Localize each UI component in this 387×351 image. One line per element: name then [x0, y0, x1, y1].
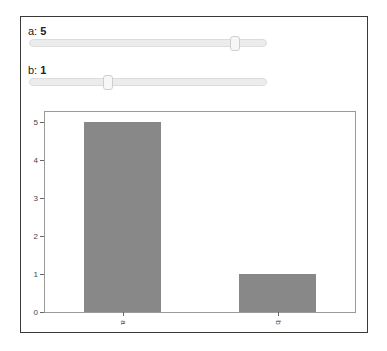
- y-tick: [40, 122, 44, 123]
- slider-b-handle[interactable]: [103, 75, 113, 90]
- bar-chart-plot-area: 012345ab: [44, 111, 356, 313]
- y-tick-label: 0: [34, 308, 38, 317]
- slider-b-value: 1: [40, 64, 46, 76]
- x-tick: [278, 312, 279, 316]
- y-tick: [40, 274, 44, 275]
- slider-b-label: b: 1: [28, 64, 46, 76]
- y-tick: [40, 160, 44, 161]
- y-tick-label: 3: [34, 193, 38, 202]
- slider-a[interactable]: [29, 39, 267, 47]
- y-tick-label: 2: [34, 231, 38, 240]
- slider-b[interactable]: [29, 78, 267, 86]
- widget-panel: a: 5 b: 1 012345ab: [20, 16, 368, 333]
- y-tick: [40, 236, 44, 237]
- y-tick-label: 5: [34, 117, 38, 126]
- x-tick: [123, 312, 124, 316]
- bar-b: [239, 274, 317, 312]
- y-tick-label: 4: [34, 155, 38, 164]
- x-tick-label: b: [273, 320, 282, 324]
- y-tick: [40, 312, 44, 313]
- slider-b-name: b:: [28, 64, 40, 76]
- y-tick-label: 1: [34, 269, 38, 278]
- x-tick-label: a: [118, 320, 127, 324]
- bar-a: [84, 122, 162, 312]
- slider-a-handle[interactable]: [230, 36, 240, 51]
- slider-a-value: 5: [40, 25, 46, 37]
- slider-a-name: a:: [28, 25, 40, 37]
- y-tick: [40, 198, 44, 199]
- slider-a-label: a: 5: [28, 25, 46, 37]
